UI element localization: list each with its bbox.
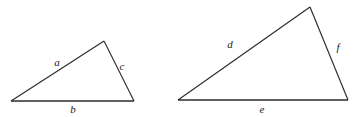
triangles-canvas: a b c d e f bbox=[0, 0, 362, 117]
label-e: e bbox=[260, 103, 265, 115]
geometry-figure: a b c d e f bbox=[0, 0, 362, 117]
label-b: b bbox=[70, 103, 76, 115]
right-triangle: d e f bbox=[178, 7, 348, 115]
label-c: c bbox=[120, 60, 125, 72]
left-triangle: a b c bbox=[11, 41, 134, 115]
label-f: f bbox=[336, 41, 341, 53]
right-triangle-side-d bbox=[178, 7, 310, 100]
label-a: a bbox=[54, 56, 60, 68]
right-triangle-side-f bbox=[310, 7, 348, 100]
left-triangle-side-a bbox=[11, 41, 104, 101]
label-d: d bbox=[227, 38, 233, 50]
